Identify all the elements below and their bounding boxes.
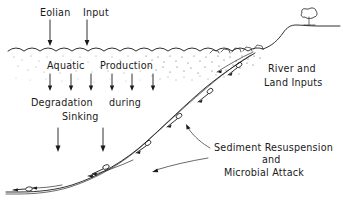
down-arrow-icon — [110, 74, 114, 91]
label-eolian: Eolian — [40, 7, 70, 18]
eolian-input-arrow-group — [48, 20, 90, 46]
shoreline-and-land-profile — [210, 25, 340, 53]
label-degradation: Degradation — [31, 97, 93, 108]
label-input: Input — [83, 7, 109, 18]
sediment-particle-icon — [198, 87, 214, 102]
sediment-particle-icon — [13, 186, 33, 191]
down-arrow-icon — [69, 74, 73, 91]
down-arrow-icon — [130, 74, 134, 91]
sediment-particle-group — [13, 61, 243, 191]
label-sinking: Sinking — [62, 111, 99, 122]
down-arrow-icon — [89, 74, 93, 91]
label-sediment-resuspension: Sediment Resuspension — [214, 142, 333, 153]
label-microbial-attack: Microbial Attack — [224, 167, 304, 178]
tree-icon — [301, 8, 317, 25]
sediment-particle-icon — [136, 139, 152, 154]
label-production: Production — [100, 60, 153, 71]
down-arrow-icon — [56, 128, 61, 152]
down-arrow-icon — [48, 20, 53, 46]
label-river-and: River and — [268, 63, 316, 74]
down-arrow-icon — [85, 20, 90, 46]
label-during: during — [109, 97, 141, 108]
sediment-transport-diagram: Eolian Input Aquatic Production Degradat… — [0, 0, 343, 204]
sinking-arrow-group — [56, 128, 106, 152]
aquatic-production-arrow-group — [48, 74, 155, 91]
down-arrow-icon — [48, 74, 52, 91]
label-and: and — [262, 154, 281, 165]
sediment-bed-profile — [6, 53, 255, 194]
label-land-inputs: Land Inputs — [264, 77, 322, 88]
down-arrow-icon — [151, 74, 155, 91]
resuspension-leader-lines — [152, 124, 210, 172]
label-aquatic: Aquatic — [47, 60, 85, 71]
diagram-canvas: Eolian Input Aquatic Production Degradat… — [0, 0, 343, 204]
down-arrow-icon — [101, 128, 106, 152]
